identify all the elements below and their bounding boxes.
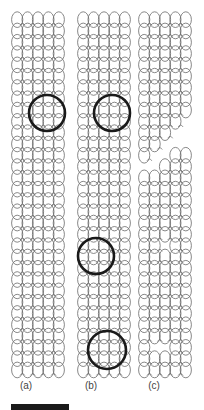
panel-label-b: (b) [71,380,111,391]
lattice-panel-b [78,12,131,378]
panel-label-c: (c) [134,380,174,391]
lattice-panel-a [12,12,65,378]
panel-label-a: (a) [6,380,46,391]
defect-circle [29,95,65,131]
knit-lattice-figure [0,0,204,410]
loop-lattices [12,12,192,378]
lattice-panel-c [139,12,192,378]
scale-bar [11,404,69,410]
